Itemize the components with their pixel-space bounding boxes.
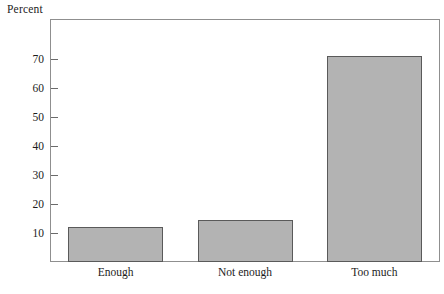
bar <box>68 227 163 262</box>
y-tick-label: 50 <box>2 111 44 123</box>
bar <box>327 56 422 262</box>
y-tick-label: 10 <box>2 227 44 239</box>
y-tick-label: 20 <box>2 198 44 210</box>
y-tick-label: 30 <box>2 169 44 181</box>
bar <box>198 220 293 262</box>
y-tick-label: 70 <box>2 53 44 65</box>
y-axis-title: Percent <box>7 3 43 15</box>
chart-screenshot: Percent 10203040506070 EnoughNot enoughT… <box>0 0 444 294</box>
y-tick-label: 40 <box>2 140 44 152</box>
y-tick-label: 60 <box>2 82 44 94</box>
plot-surface <box>51 20 439 262</box>
x-category-label: Not enough <box>218 266 272 278</box>
x-category-label: Enough <box>98 266 134 278</box>
x-category-label: Too much <box>351 266 397 278</box>
